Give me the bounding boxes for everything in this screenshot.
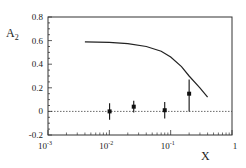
axis-ticks xyxy=(48,17,232,135)
data-point xyxy=(132,105,136,109)
x-tick-label: 10-3 xyxy=(38,140,52,151)
data-points xyxy=(108,80,192,120)
plot-border xyxy=(48,17,232,135)
y-tick-label: 0.8 xyxy=(32,12,44,22)
chart: -0.200.20.40.60.810-310-210-11 A2 X xyxy=(0,0,246,168)
x-tick-label: 1 xyxy=(233,141,238,151)
x-axis-title: X xyxy=(201,149,210,163)
data-point xyxy=(108,109,112,113)
x-tick-label: 10-2 xyxy=(99,140,113,151)
y-axis-title: A2 xyxy=(6,26,19,42)
y-tick-label: -0.2 xyxy=(29,130,43,140)
data-point xyxy=(187,92,191,96)
plot-frame xyxy=(48,17,232,135)
y-tick-label: 0.6 xyxy=(32,36,44,46)
y-tick-label: 0.2 xyxy=(32,83,43,93)
y-tick-label: 0.4 xyxy=(32,59,44,69)
x-tick-label: 10-1 xyxy=(161,140,175,151)
axis-labels: -0.200.20.40.60.810-310-210-11 xyxy=(29,12,238,151)
y-tick-label: 0 xyxy=(39,106,44,116)
data-point xyxy=(163,108,167,112)
